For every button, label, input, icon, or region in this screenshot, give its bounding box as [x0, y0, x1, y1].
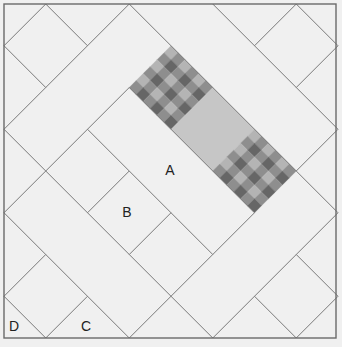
- label-d: D: [9, 318, 19, 334]
- tile-layout-diagram: A B C D: [0, 0, 342, 347]
- label-b: B: [122, 204, 131, 220]
- label-c: C: [81, 318, 91, 334]
- label-a: A: [165, 162, 175, 178]
